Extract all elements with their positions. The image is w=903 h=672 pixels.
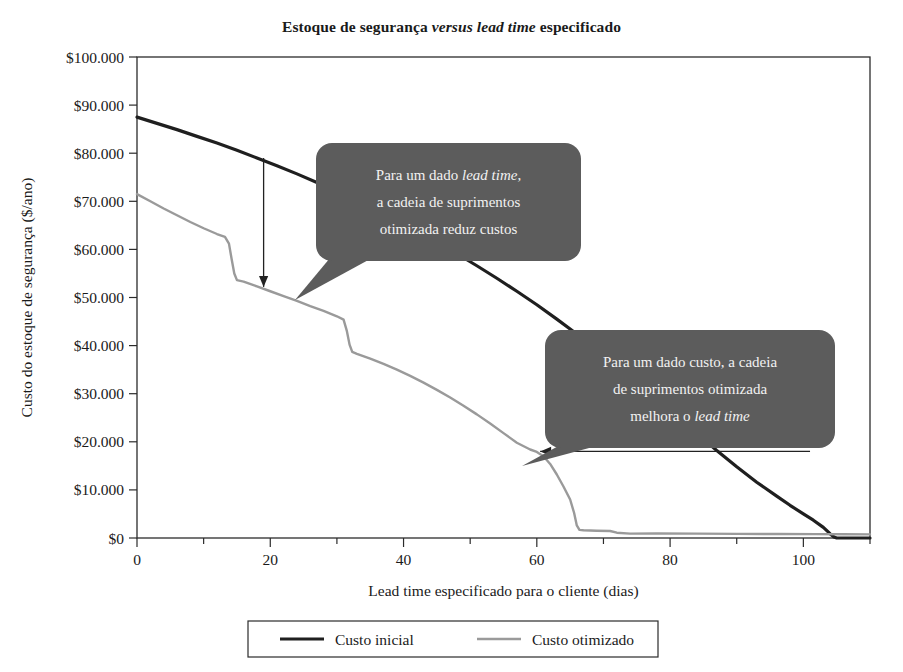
x-tick-label: 100 bbox=[792, 551, 816, 568]
vertical-cost-arrow-head bbox=[259, 276, 268, 287]
y-tick-label: $80.000 bbox=[74, 145, 125, 162]
x-axis-ticks-group: 020406080100 bbox=[133, 538, 870, 568]
callout-cost-reduction-line: a cadeia de suprimentos bbox=[377, 194, 521, 210]
x-tick-label: 0 bbox=[133, 551, 141, 568]
plot-frame-group bbox=[137, 57, 870, 538]
y-tick-label: $90.000 bbox=[74, 97, 125, 114]
y-tick-label: $70.000 bbox=[74, 193, 125, 210]
figure-container: Estoque de segurança versus lead time es… bbox=[0, 0, 903, 672]
x-axis-title-group: Lead time especificado para o cliente (d… bbox=[368, 582, 638, 600]
callout-leadtime-improvement-line: melhora o lead time bbox=[630, 408, 750, 424]
x-tick-label: 60 bbox=[529, 551, 545, 568]
y-tick-label: $60.000 bbox=[74, 241, 125, 258]
y-tick-label: $20.000 bbox=[74, 433, 125, 450]
y-axis-ticks-group: $0$10.000$20.000$30.000$40.000$50.000$60… bbox=[66, 49, 137, 547]
x-tick-label: 40 bbox=[396, 551, 412, 568]
callout-leadtime-improvement-line: de suprimentos otimizada bbox=[613, 381, 767, 397]
legend-group: Custo inicialCusto otimizado bbox=[248, 621, 658, 657]
callout-cost-reduction-line: otimizada reduz custos bbox=[380, 221, 518, 237]
y-tick-label: $40.000 bbox=[74, 337, 125, 354]
callout-leadtime-improvement-line: Para um dado custo, a cadeia bbox=[603, 354, 777, 370]
legend-label-0: Custo inicial bbox=[335, 631, 414, 648]
y-tick-label: $10.000 bbox=[74, 481, 125, 498]
x-axis-title: Lead time especificado para o cliente (d… bbox=[368, 582, 638, 600]
y-axis-title: Custo do estoque de segurança ($/ano) bbox=[18, 178, 36, 418]
y-tick-label: $30.000 bbox=[74, 385, 125, 402]
callout-cost-reduction-tail bbox=[295, 258, 372, 300]
plot-frame bbox=[137, 57, 870, 538]
chart-plot-area: $0$10.000$20.000$30.000$40.000$50.000$60… bbox=[0, 0, 903, 672]
callout-bubbles-group: Para um dado lead time,a cadeia de supri… bbox=[295, 143, 835, 466]
x-tick-label: 80 bbox=[662, 551, 678, 568]
y-tick-label: $100.000 bbox=[66, 49, 124, 66]
y-tick-label: $0 bbox=[109, 530, 125, 547]
legend-label-1: Custo otimizado bbox=[532, 631, 634, 648]
callout-cost-reduction-line: Para um dado lead time, bbox=[376, 167, 521, 183]
x-tick-label: 20 bbox=[263, 551, 279, 568]
y-tick-label: $50.000 bbox=[74, 289, 125, 306]
y-axis-title-group: Custo do estoque de segurança ($/ano) bbox=[18, 178, 36, 418]
